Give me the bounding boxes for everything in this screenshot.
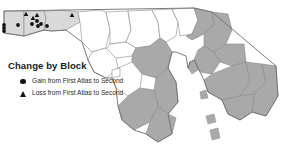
loss-triangle-icon xyxy=(18,88,28,98)
marker-gain xyxy=(45,24,49,28)
map-figure: Change by Block Gain from First Atlas to… xyxy=(0,0,287,153)
legend-title: Change by Block xyxy=(8,60,148,71)
county-washington xyxy=(44,10,80,31)
marker-gain xyxy=(30,22,34,26)
marker-gain xyxy=(39,22,43,26)
legend-item-loss: Loss from First Atlas to Second xyxy=(8,88,148,98)
island-tangier xyxy=(210,128,220,140)
legend-item-gain: Gain from First Atlas to Second xyxy=(8,76,148,86)
legend-label-loss: Loss from First Atlas to Second xyxy=(32,89,123,97)
island-smith xyxy=(206,114,216,124)
legend-label-gain: Gain from First Atlas to Second xyxy=(32,77,123,85)
island-hooper xyxy=(200,90,208,99)
marker-gain xyxy=(35,19,39,23)
marker-gain xyxy=(16,23,20,27)
county-garrett xyxy=(4,11,24,36)
gain-circle-icon xyxy=(18,76,28,86)
map-legend: Change by Block Gain from First Atlas to… xyxy=(8,60,148,100)
marker-gain xyxy=(2,29,6,33)
